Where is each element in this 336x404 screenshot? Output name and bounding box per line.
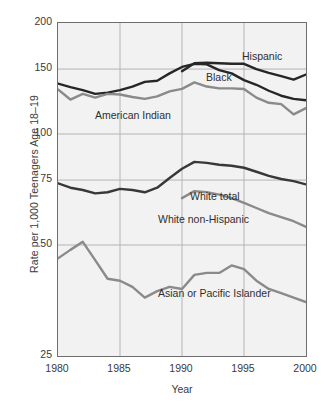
annotation-american-indian: American Indian <box>95 109 171 121</box>
annotation-white-non-hispanic: White non-Hispanic <box>158 213 249 225</box>
series-canvas <box>58 23 306 356</box>
x-tick-label-1985: 1985 <box>97 362 141 374</box>
y-tick-label-150: 150 <box>12 62 52 73</box>
x-tick-label-1990: 1990 <box>159 362 203 374</box>
annotation-hispanic: Hispanic <box>242 50 282 62</box>
annotation-black: Black <box>206 71 232 83</box>
y-tick-label-50: 50 <box>12 238 52 249</box>
x-tick-label-1995: 1995 <box>221 362 265 374</box>
x-tick-label-1980: 1980 <box>35 362 79 374</box>
y-tick-label-200: 200 <box>12 16 52 27</box>
annotation-white-total: White total <box>190 190 240 202</box>
y-tick-label-100: 100 <box>12 127 52 138</box>
chart-figure: Rate per 1,000 Teenagers Age 18–19 200 1… <box>0 0 336 404</box>
y-tick-label-75: 75 <box>12 173 52 184</box>
y-tick-label-25: 25 <box>12 349 52 360</box>
plot-area <box>57 22 307 357</box>
x-tick-label-2000: 2000 <box>283 362 327 374</box>
x-axis-title: Year <box>57 383 307 395</box>
annotation-asian-pacific-islander: Asian or Pacific Islander <box>158 287 271 299</box>
